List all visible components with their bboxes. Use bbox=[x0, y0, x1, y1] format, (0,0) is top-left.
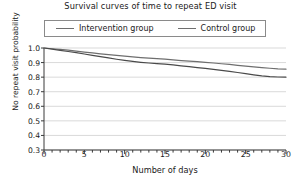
plot-area bbox=[0, 0, 301, 186]
survival-curve-chart: Survival curves of time to repeat ED vis… bbox=[0, 0, 301, 186]
series-line-intervention bbox=[44, 48, 286, 69]
